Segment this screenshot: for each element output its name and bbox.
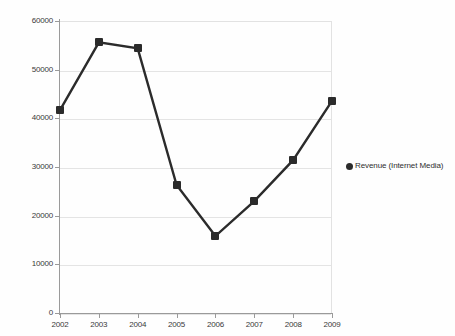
- legend-label: Revenue (Internet Media): [355, 161, 451, 171]
- x-axis-line: [55, 313, 333, 314]
- y-tick-mark: [55, 118, 60, 119]
- circle-marker-icon: [346, 163, 353, 170]
- x-tick-mark: [293, 314, 294, 318]
- y-tick-label: 60000: [1, 16, 53, 25]
- y-tick-label: 30000: [1, 162, 53, 171]
- chart-legend: Revenue (Internet Media): [346, 161, 454, 171]
- plot-area: [60, 21, 332, 313]
- y-tick-label: 0: [1, 308, 53, 317]
- x-tick-mark: [60, 314, 61, 318]
- data-point: [134, 44, 142, 52]
- gridline: [60, 217, 331, 218]
- line-chart: 0100002000030000400005000060000 20022003…: [0, 0, 455, 336]
- x-tick-mark: [215, 314, 216, 318]
- y-tick-label: 10000: [1, 259, 53, 268]
- gridline: [60, 119, 331, 120]
- data-point: [289, 156, 297, 164]
- y-tick-mark: [55, 167, 60, 168]
- x-tick-mark: [138, 314, 139, 318]
- data-point: [250, 197, 258, 205]
- x-tick-label: 2007: [234, 320, 274, 329]
- gridline: [60, 168, 331, 169]
- y-tick-mark: [55, 21, 60, 22]
- data-point: [56, 106, 64, 114]
- gridline: [60, 265, 331, 266]
- legend-item: Revenue (Internet Media): [346, 161, 454, 171]
- y-tick-label: 50000: [1, 65, 53, 74]
- x-tick-label: 2005: [157, 320, 197, 329]
- y-tick-mark: [55, 216, 60, 217]
- data-point: [211, 232, 219, 240]
- y-tick-label: 20000: [1, 211, 53, 220]
- x-tick-mark: [177, 314, 178, 318]
- data-point: [328, 97, 336, 105]
- gridline: [60, 71, 331, 72]
- x-tick-label: 2004: [118, 320, 158, 329]
- x-tick-mark: [254, 314, 255, 318]
- gridline: [60, 314, 331, 315]
- x-tick-label: 2008: [273, 320, 313, 329]
- x-tick-mark: [332, 314, 333, 318]
- y-tick-label: 40000: [1, 113, 53, 122]
- x-tick-label: 2003: [79, 320, 119, 329]
- data-point: [173, 181, 181, 189]
- x-tick-mark: [99, 314, 100, 318]
- x-tick-label: 2002: [40, 320, 80, 329]
- x-tick-label: 2006: [195, 320, 235, 329]
- x-tick-label: 2009: [312, 320, 352, 329]
- data-point: [95, 38, 103, 46]
- y-tick-mark: [55, 264, 60, 265]
- y-tick-mark: [55, 70, 60, 71]
